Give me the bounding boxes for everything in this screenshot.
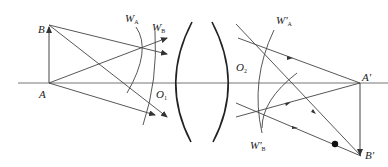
label-O2: O2 — [236, 62, 247, 74]
ray-direction-mark — [285, 102, 291, 106]
wavefront-WpB — [262, 73, 297, 128]
label-Bp-text: B' — [365, 149, 374, 161]
label-B: B — [38, 24, 45, 35]
lens-left-surface — [176, 22, 192, 142]
label-WB: WB — [152, 22, 165, 34]
label-Ap-text: A' — [362, 71, 371, 83]
label-A-text: A — [39, 88, 46, 100]
optical-diagram — [0, 0, 388, 167]
label-O1: O1 — [156, 89, 167, 101]
label-WA-text: W — [125, 12, 134, 24]
label-WpA-text: W' — [276, 14, 288, 26]
ray-A-lower — [49, 83, 155, 115]
ray-B-upper — [49, 25, 167, 54]
ray-direction-mark — [287, 56, 293, 60]
label-WB-text: W — [152, 21, 161, 33]
label-WpA: W'A — [276, 15, 292, 27]
ray-to-Ap-lower — [236, 83, 360, 117]
label-Bp: B' — [365, 150, 374, 161]
wavefront-WpA — [258, 30, 274, 133]
label-WpB-text: W' — [250, 139, 262, 151]
label-WpA-sub: A — [288, 21, 292, 27]
ray-A-upper — [49, 38, 167, 83]
ray-to-Ap-upper — [238, 38, 360, 83]
label-WB-sub: B — [161, 28, 165, 34]
label-Ap: A' — [362, 72, 371, 83]
ray-direction-mark — [311, 109, 316, 114]
label-WpB: W'B — [250, 140, 266, 152]
label-A: A — [39, 89, 46, 100]
label-O2-text: O — [236, 61, 244, 73]
label-WA: WA — [125, 13, 139, 25]
lens-right-surface — [212, 22, 228, 142]
label-WA-sub: A — [134, 19, 138, 25]
label-O1-text: O — [156, 88, 164, 100]
label-O1-sub: 1 — [164, 95, 167, 101]
label-WpB-sub: B — [262, 146, 266, 152]
ray-to-Bp-upper — [236, 24, 361, 156]
label-O2-sub: 2 — [244, 68, 247, 74]
label-B-text: B — [38, 23, 45, 35]
point-marker — [332, 141, 338, 147]
